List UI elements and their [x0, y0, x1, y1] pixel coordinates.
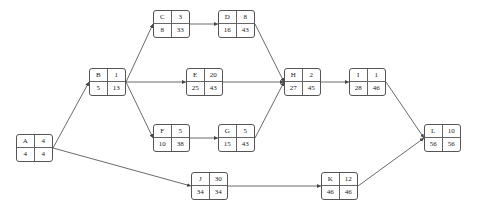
activity-label: E	[187, 69, 205, 82]
activity-early-finish: 43	[237, 138, 255, 151]
activity-node-j: J 30 34 34	[191, 172, 228, 200]
activity-early-finish: 43	[205, 82, 223, 95]
activity-early-start: 5	[90, 82, 108, 95]
activity-duration: 2	[303, 69, 321, 82]
activity-early-start: 34	[192, 186, 210, 199]
activity-early-start: 46	[322, 186, 340, 199]
activity-label: F	[154, 125, 172, 138]
activity-early-start: 10	[154, 138, 172, 151]
activity-label: B	[90, 69, 108, 82]
activity-early-start: 15	[219, 138, 237, 151]
activity-early-start: 4	[17, 148, 35, 161]
edge-b-f	[126, 82, 153, 138]
edge-b-c	[126, 24, 153, 82]
activity-node-a: A 4 4 4	[16, 134, 53, 162]
activity-early-finish: 46	[340, 186, 358, 199]
activity-early-finish: 38	[172, 138, 190, 151]
activity-duration: 5	[172, 125, 190, 138]
activity-duration: 1	[108, 69, 126, 82]
activity-node-i: I 1 28 46	[349, 68, 386, 96]
activity-early-start: 27	[285, 82, 303, 95]
activity-duration: 30	[210, 173, 228, 186]
activity-early-start: 56	[425, 138, 443, 151]
activity-label: D	[219, 11, 237, 24]
activity-label: L	[425, 125, 443, 138]
activity-label: I	[350, 69, 368, 82]
activity-early-finish: 45	[303, 82, 321, 95]
activity-node-b: B 1 5 13	[89, 68, 126, 96]
activity-node-l: L 10 56 56	[424, 124, 461, 152]
activity-duration: 8	[237, 11, 255, 24]
edge-i-l	[386, 82, 424, 138]
edge-d-h	[255, 24, 284, 82]
activity-node-e: E 20 25 43	[186, 68, 223, 96]
edge-a-j	[53, 148, 191, 186]
activity-early-finish: 56	[443, 138, 461, 151]
activity-duration: 4	[35, 135, 53, 148]
activity-early-finish: 46	[368, 82, 386, 95]
activity-early-finish: 33	[172, 24, 190, 37]
activity-early-finish: 13	[108, 82, 126, 95]
activity-early-start: 8	[154, 24, 172, 37]
activity-node-g: G 5 15 43	[218, 124, 255, 152]
activity-early-finish: 4	[35, 148, 53, 161]
edge-g-h	[255, 82, 284, 138]
activity-duration: 5	[237, 125, 255, 138]
activity-duration: 10	[443, 125, 461, 138]
activity-label: C	[154, 11, 172, 24]
edge-k-l	[358, 138, 424, 186]
activity-duration: 1	[368, 69, 386, 82]
activity-early-finish: 43	[237, 24, 255, 37]
activity-duration: 3	[172, 11, 190, 24]
activity-label: G	[219, 125, 237, 138]
activity-early-start: 25	[187, 82, 205, 95]
activity-label: A	[17, 135, 35, 148]
activity-label: H	[285, 69, 303, 82]
network-diagram: A 4 4 4 B 1 5 13 C 3 8 33 D 8 16 43 E 20…	[0, 0, 478, 215]
activity-node-d: D 8 16 43	[218, 10, 255, 38]
activity-duration: 20	[205, 69, 223, 82]
activity-early-finish: 34	[210, 186, 228, 199]
activity-node-k: K 12 46 46	[321, 172, 358, 200]
activity-label: J	[192, 173, 210, 186]
activity-node-c: C 3 8 33	[153, 10, 190, 38]
activity-node-f: F 5 10 38	[153, 124, 190, 152]
activity-duration: 12	[340, 173, 358, 186]
activity-label: K	[322, 173, 340, 186]
edge-a-b	[53, 82, 89, 148]
activity-node-h: H 2 27 45	[284, 68, 321, 96]
activity-early-start: 28	[350, 82, 368, 95]
activity-early-start: 16	[219, 24, 237, 37]
